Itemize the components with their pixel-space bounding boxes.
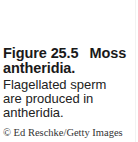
figure-description: Flagellated sperm are produced in anther… [3,78,113,120]
figure-title: Figure 25.5Moss antheridia. [3,46,137,76]
figure-number: Figure 25.5 [3,45,78,61]
photo-credit: © Ed Reschke/Getty Images [3,127,137,139]
figure-title-first-word: Moss [89,45,126,61]
figure-caption: Figure 25.5Moss antheridia. Flagellated … [3,46,137,139]
figure-title-rest: antheridia. [3,60,75,76]
